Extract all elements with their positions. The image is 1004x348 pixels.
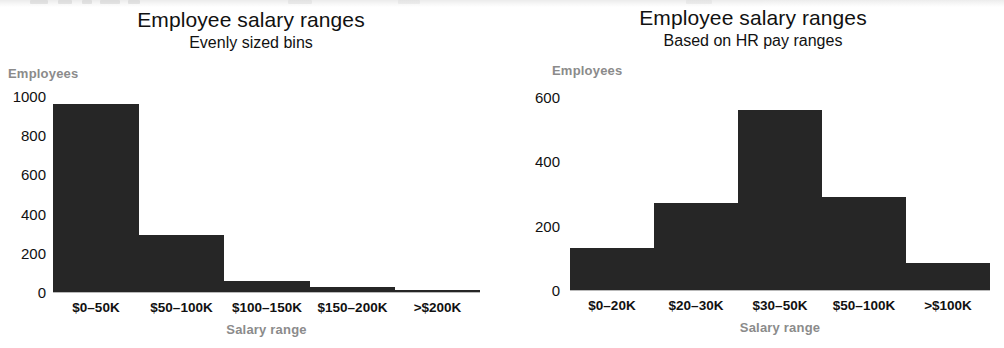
y-tick-400: 400 <box>508 153 560 170</box>
y-tick-600: 600 <box>508 89 560 106</box>
chart-evenly-sized-bins: Employee salary ranges Evenly sized bins… <box>0 0 502 348</box>
x-tick-20-30k: $20–30K <box>654 298 738 313</box>
y-tick-0: 0 <box>508 282 560 299</box>
y-tick-200: 200 <box>508 218 560 235</box>
bar-20-30k <box>654 203 738 290</box>
x-axis-label: Salary range <box>570 320 990 335</box>
x-tick-30-50k: $30–50K <box>738 298 822 313</box>
plot-area <box>570 97 990 290</box>
x-tick-over-100k: >$100K <box>906 298 990 313</box>
y-axis-label: Employees <box>8 66 78 81</box>
chart-title: Employee salary ranges <box>502 6 1004 30</box>
chart-title: Employee salary ranges <box>0 8 502 32</box>
bar-0-20k <box>570 248 654 290</box>
chart-subtitle: Evenly sized bins <box>0 34 502 52</box>
x-axis-baseline <box>53 292 480 293</box>
bar-50-100k <box>822 197 906 290</box>
bar-150-200k <box>310 287 395 292</box>
bar-over-200k <box>395 290 480 292</box>
x-tick-50-100k: $50–100K <box>139 300 224 315</box>
x-axis-baseline <box>570 290 990 291</box>
y-axis-label: Employees <box>552 63 622 78</box>
x-tick-0-20k: $0–20K <box>570 298 654 313</box>
y-tick-0: 0 <box>0 284 46 301</box>
y-tick-600: 600 <box>0 166 46 183</box>
bar-30-50k <box>738 110 822 290</box>
bar-50-100k <box>139 235 224 292</box>
x-axis-label: Salary range <box>53 322 480 337</box>
chart-subtitle: Based on HR pay ranges <box>502 32 1004 50</box>
y-tick-400: 400 <box>0 206 46 223</box>
chart-hr-pay-ranges: Employee salary ranges Based on HR pay r… <box>502 0 1004 348</box>
bar-over-100k <box>906 263 990 290</box>
bar-0-50k <box>53 104 139 292</box>
bar-100-150k <box>224 281 310 292</box>
x-tick-0-50k: $0–50K <box>53 300 139 315</box>
y-tick-800: 800 <box>0 127 46 144</box>
y-tick-200: 200 <box>0 245 46 262</box>
x-tick-50-100k: $50–100K <box>822 298 906 313</box>
y-tick-1000: 1000 <box>0 88 46 105</box>
x-tick-150-200k: $150–200K <box>310 300 395 315</box>
plot-area <box>53 96 480 292</box>
x-tick-100-150k: $100–150K <box>224 300 310 315</box>
x-tick-over-200k: >$200K <box>395 300 480 315</box>
